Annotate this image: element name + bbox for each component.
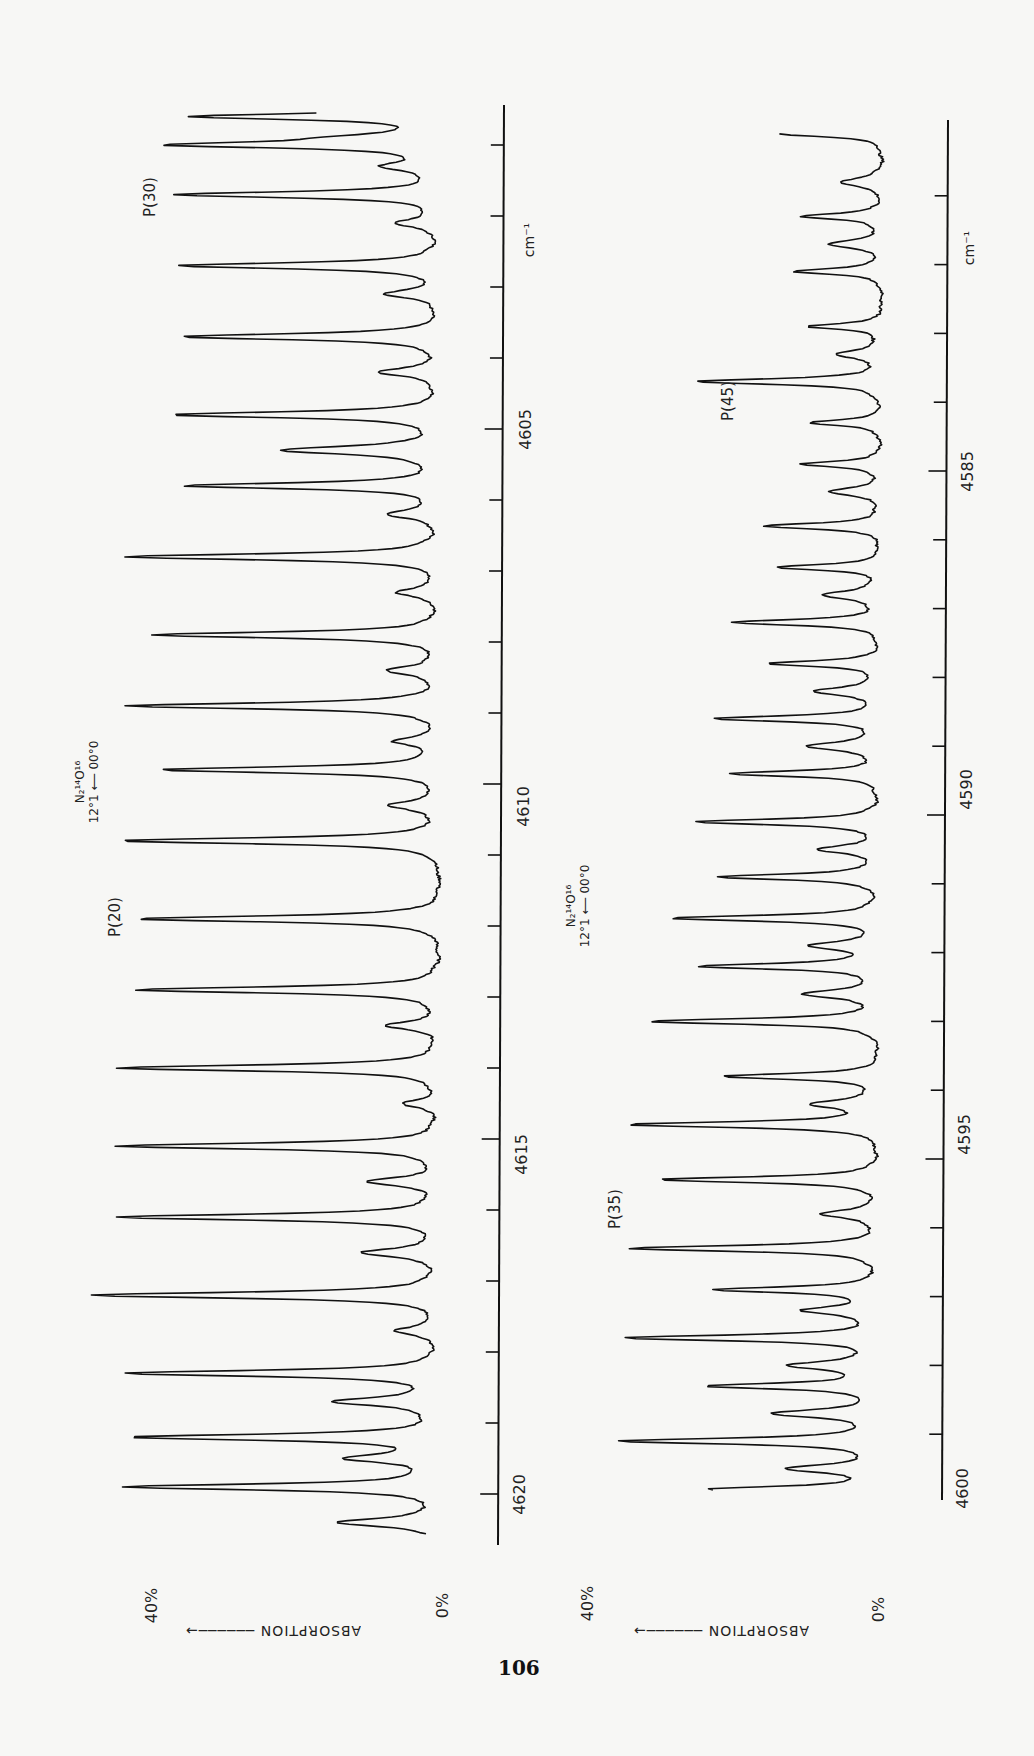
top-annotation-p20: P(20) — [106, 897, 124, 937]
bottom-annotation-p35: P(35) — [606, 1189, 624, 1229]
top-molecule-formula: N₂¹⁴O¹⁶ — [73, 741, 87, 824]
bottom-y-min-label: 0% — [869, 1597, 888, 1622]
bottom-molecule-label: N₂¹⁴O¹⁶ 12°1 ⟵ 00°0 — [564, 865, 592, 948]
top-molecule-label: N₂¹⁴O¹⁶ 12°1 ⟵ 00°0 — [73, 741, 101, 824]
bottom-tick-label-4595: 4595 — [955, 1114, 974, 1155]
bottom-y-max-label: 40% — [578, 1586, 597, 1622]
bottom-tick-label-4590: 4590 — [957, 769, 976, 810]
top-molecule-transition: 12°1 ⟵ 00°0 — [87, 741, 101, 824]
bottom-tick-label-4600: 4600 — [953, 1468, 972, 1509]
bottom-wavenumber-axis — [942, 120, 948, 1500]
top-tick-label-4605: 4605 — [516, 409, 535, 450]
top-spectrum-trace — [91, 113, 440, 1534]
page-number: 106 — [498, 1656, 540, 1680]
top-y-max-label: 40% — [142, 1588, 161, 1624]
top-axis-unit: cm⁻¹ — [521, 223, 537, 257]
bottom-spectrum-trace — [619, 134, 884, 1490]
bottom-absorption-arrow-icon: ──────→ — [633, 1623, 702, 1639]
bottom-axis-unit: cm⁻¹ — [961, 231, 977, 265]
bottom-molecule-transition: 12°1 ⟵ 00°0 — [578, 865, 592, 948]
bottom-spectrum-panel — [619, 120, 948, 1500]
bottom-tick-label-4585: 4585 — [958, 451, 977, 492]
bottom-axis-ticks — [925, 196, 947, 1434]
top-y-axis-label: ABSORPTION ──────→ — [185, 1623, 361, 1639]
top-absorption-arrow-icon: ──────→ — [185, 1623, 254, 1639]
top-annotation-p30: P(30) — [141, 177, 159, 217]
top-y-min-label: 0% — [433, 1593, 452, 1618]
bottom-y-axis-label: ABSORPTION ──────→ — [633, 1623, 809, 1639]
top-tick-label-4615: 4615 — [512, 1134, 531, 1175]
bottom-absorption-label: ABSORPTION — [708, 1623, 809, 1639]
bottom-molecule-formula: N₂¹⁴O¹⁶ — [564, 865, 578, 948]
top-spectrum-panel — [91, 105, 504, 1545]
top-tick-label-4620: 4620 — [510, 1474, 529, 1515]
top-absorption-label: ABSORPTION — [260, 1623, 361, 1639]
bottom-annotation-p45: P(45) — [719, 381, 737, 421]
top-wavenumber-axis — [498, 105, 504, 1545]
top-tick-label-4610: 4610 — [514, 786, 533, 827]
